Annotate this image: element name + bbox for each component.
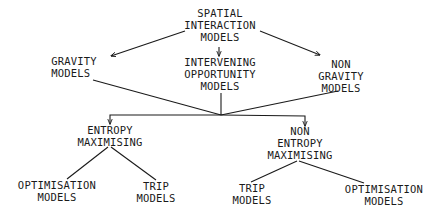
- node-label-line: OPPORTUNITY: [184, 69, 256, 81]
- node-non-gravity-models: NON GRAVITY MODELS: [318, 59, 364, 94]
- node-entropy-maximising: ENTROPY MAXIMISING: [77, 125, 142, 149]
- node-intervening-opportunity-models: INTERVENING OPPORTUNITY MODELS: [184, 57, 256, 92]
- edge-entropy-trip: [111, 147, 156, 180]
- node-gravity-models: GRAVITY MODELS: [51, 56, 97, 80]
- node-label-line: MODELS: [232, 195, 271, 207]
- node-entropy-optimisation-models: OPTIMISATION MODELS: [18, 180, 96, 204]
- node-non-entropy-trip-models: TRIP MODELS: [232, 183, 271, 207]
- edge-root-gravity: [111, 31, 185, 56]
- node-non-entropy-optimisation-models: OPTIMISATION MODELS: [345, 184, 423, 208]
- edge-non-entropy-trip: [251, 161, 297, 182]
- edge-non-gravity-junction: [221, 91, 338, 115]
- node-label-line: MODELS: [51, 68, 97, 80]
- node-spatial-interaction-models: SPATIAL INTERACTION MODELS: [184, 8, 256, 43]
- node-label-line: ENTROPY: [267, 138, 332, 150]
- node-label-line: MODELS: [18, 192, 96, 204]
- spatial-interaction-models-diagram: SPATIAL INTERACTION MODELS GRAVITY MODEL…: [0, 0, 434, 219]
- edge-root-non-gravity: [260, 31, 320, 55]
- node-label-line: MODELS: [184, 32, 256, 44]
- node-entropy-trip-models: TRIP MODELS: [136, 181, 175, 205]
- node-label-line: MODELS: [318, 83, 364, 95]
- node-label-line: MAXIMISING: [77, 137, 142, 149]
- node-label-line: MODELS: [136, 193, 175, 205]
- junction-bar-left: [110, 115, 221, 124]
- node-label-line: MODELS: [345, 196, 423, 208]
- edge-non-entropy-optimisation: [299, 161, 364, 183]
- edge-entropy-optimisation: [67, 147, 108, 179]
- node-label-line: GRAVITY: [318, 71, 364, 83]
- node-label-line: MAXIMISING: [267, 150, 332, 162]
- node-non-entropy-maximising: NON ENTROPY MAXIMISING: [267, 126, 332, 161]
- node-label-line: MODELS: [184, 81, 256, 93]
- node-label-line: INTERACTION: [184, 20, 256, 32]
